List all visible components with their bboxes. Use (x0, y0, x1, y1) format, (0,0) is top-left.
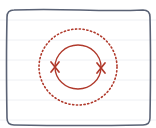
solid-circle (55, 45, 101, 89)
sketch-diagram (0, 0, 156, 128)
frame (7, 10, 151, 126)
